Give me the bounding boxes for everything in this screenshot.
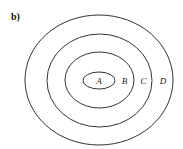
region-label-a: A (95, 76, 102, 86)
region-label-b: B (122, 76, 128, 86)
region-label-d: D (159, 76, 167, 86)
nested-ellipse-diagram: A B C D (0, 0, 183, 149)
region-label-c: C (140, 76, 147, 86)
